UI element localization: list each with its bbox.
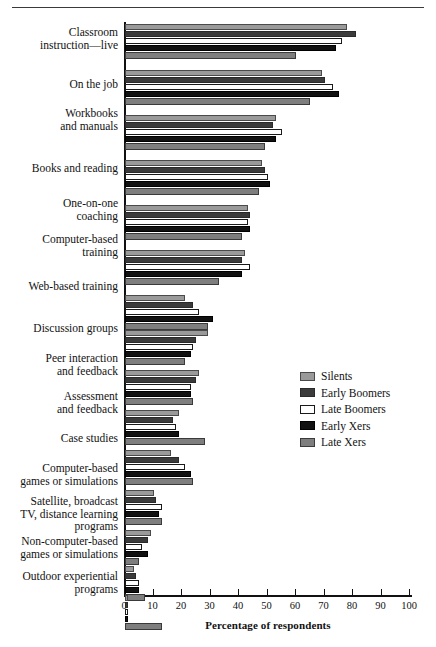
x-tick-label: 100 — [394, 600, 424, 611]
x-tick-label: 60 — [280, 600, 310, 611]
x-tick-mark — [352, 589, 353, 596]
bar-early-xers — [125, 551, 148, 557]
bar-late-xers — [125, 278, 219, 284]
bar-stack — [125, 24, 356, 59]
category-label: Computer-basedtraining — [0, 233, 118, 258]
bar-late-boomers — [125, 580, 139, 586]
x-tick-mark — [181, 589, 182, 596]
chart-legend: SilentsEarly BoomersLate BoomersEarly Xe… — [300, 368, 430, 451]
bar-late-boomers — [125, 504, 162, 510]
bar-silents — [125, 115, 276, 121]
bar-silents — [125, 295, 185, 301]
bar-silents — [125, 330, 208, 336]
bar-late-boomers — [125, 219, 248, 225]
bar-early-boomers — [125, 457, 179, 463]
bar-late-boomers — [125, 344, 193, 350]
bar-silents — [125, 530, 151, 536]
bar-early-boomers — [125, 537, 148, 543]
legend-label: Early Xers — [321, 420, 371, 432]
bar-stack — [125, 490, 162, 525]
x-tick-mark — [295, 589, 296, 596]
category-label: Discussion groups — [0, 322, 118, 335]
bar-early-boomers — [125, 212, 250, 218]
category-label: Satellite, broadcastTV, distance learnin… — [0, 495, 118, 533]
legend-swatch-icon — [300, 388, 315, 397]
bar-late-boomers — [125, 84, 333, 90]
bar-early-xers — [125, 91, 339, 97]
bar-early-boomers — [125, 377, 196, 383]
x-axis-title: Percentage of respondents — [124, 619, 412, 631]
bar-silents — [125, 205, 248, 211]
bar-stack — [125, 450, 193, 485]
bar-late-boomers — [125, 384, 191, 390]
category-label: Peer interactionand feedback — [0, 352, 118, 377]
bar-early-boomers — [125, 417, 173, 423]
category-label: One-on-onecoaching — [0, 197, 118, 222]
bar-late-boomers — [125, 424, 176, 430]
bar-late-xers — [125, 478, 193, 484]
bar-stack — [125, 115, 282, 150]
legend-item: Late Xers — [300, 434, 430, 451]
legend-label: Silents — [321, 370, 352, 382]
x-tick-mark — [267, 589, 268, 596]
category-label: Classroominstruction—live — [0, 26, 118, 51]
bar-stack — [125, 330, 208, 365]
bar-early-xers — [125, 511, 159, 517]
bar-silents — [125, 490, 154, 496]
bar-late-xers — [125, 358, 185, 364]
bar-stack — [125, 530, 151, 565]
bar-silents — [125, 566, 134, 572]
bar-early-xers — [125, 45, 336, 51]
bar-silents — [125, 24, 347, 30]
legend-swatch-icon — [300, 421, 315, 430]
bar-late-boomers — [125, 38, 342, 44]
x-tick-mark — [324, 589, 325, 596]
bar-early-xers — [125, 391, 191, 397]
x-tick-label: 50 — [252, 600, 282, 611]
bar-late-boomers — [125, 544, 142, 550]
bar-late-xers — [125, 188, 259, 194]
category-label: Assessmentand feedback — [0, 390, 118, 415]
bar-early-xers — [125, 471, 191, 477]
bar-early-boomers — [125, 77, 325, 83]
bar-early-boomers — [125, 31, 356, 37]
bar-early-xers — [125, 226, 250, 232]
bar-early-xers — [125, 316, 213, 322]
bar-early-xers — [125, 136, 276, 142]
bar-silents — [125, 250, 245, 256]
legend-swatch-icon — [300, 372, 315, 381]
bar-stack — [125, 250, 250, 285]
bar-silents — [125, 70, 322, 76]
bar-late-boomers — [125, 609, 128, 615]
bar-early-xers — [125, 351, 191, 357]
x-tick-label: 40 — [223, 600, 253, 611]
x-tick-label: 30 — [195, 600, 225, 611]
category-label: Case studies — [0, 432, 118, 445]
category-label: On the job — [0, 78, 118, 91]
bar-chart-figure: 0102030405060708090100 Classroominstruct… — [0, 0, 436, 647]
bar-early-xers — [125, 181, 270, 187]
bar-early-boomers — [125, 257, 242, 263]
bar-early-boomers — [125, 337, 196, 343]
bar-early-xers — [125, 271, 242, 277]
bar-late-xers — [125, 98, 310, 104]
bar-late-xers — [125, 518, 162, 524]
category-label: Non-computer-basedgames or simulations — [0, 535, 118, 560]
bar-late-boomers — [125, 264, 250, 270]
bar-late-boomers — [125, 309, 199, 315]
bar-late-boomers — [125, 174, 268, 180]
legend-item: Early Xers — [300, 418, 430, 435]
legend-swatch-icon — [300, 438, 315, 447]
bar-early-boomers — [125, 302, 193, 308]
category-label: Computer-basedgames or simulations — [0, 462, 118, 487]
bar-early-boomers — [125, 122, 273, 128]
legend-swatch-icon — [300, 405, 315, 414]
bar-stack — [125, 205, 250, 240]
bar-late-xers — [125, 52, 296, 58]
bar-early-boomers — [125, 167, 265, 173]
bar-late-xers — [125, 438, 205, 444]
bar-late-xers — [125, 143, 265, 149]
legend-label: Late Xers — [321, 436, 366, 448]
legend-item: Silents — [300, 368, 430, 385]
x-tick-label: 90 — [366, 600, 396, 611]
